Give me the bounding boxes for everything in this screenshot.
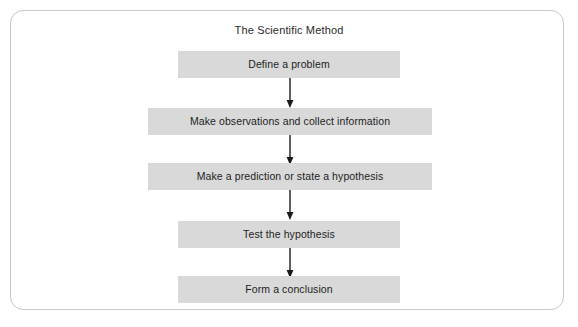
flow-step-box-4: Test the hypothesis [178, 221, 400, 248]
arrow-down-icon [284, 135, 296, 165]
flow-step-label-5: Form a conclusion [245, 284, 332, 295]
flow-step-box-3: Make a prediction or state a hypothesis [148, 163, 432, 190]
flow-step-box-2: Make observations and collect informatio… [148, 108, 432, 135]
flow-step-label-3: Make a prediction or state a hypothesis [197, 171, 384, 182]
flow-step-label-2: Make observations and collect informatio… [190, 116, 390, 127]
flow-arrow-1 [284, 78, 296, 108]
flow-step-box-5: Form a conclusion [178, 276, 400, 303]
arrow-down-icon [284, 248, 296, 278]
flow-arrow-4 [284, 248, 296, 278]
flow-step-label-4: Test the hypothesis [243, 229, 335, 240]
flow-step-box-1: Define a problem [178, 51, 400, 78]
arrow-down-icon [284, 78, 296, 108]
scientific-method-flowchart: The Scientific Method Define a problem M… [0, 0, 578, 327]
arrow-down-icon [284, 190, 296, 220]
figure-title: The Scientific Method [0, 24, 578, 36]
flow-arrow-3 [284, 190, 296, 220]
flow-arrow-2 [284, 135, 296, 165]
flow-step-label-1: Define a problem [248, 59, 330, 70]
